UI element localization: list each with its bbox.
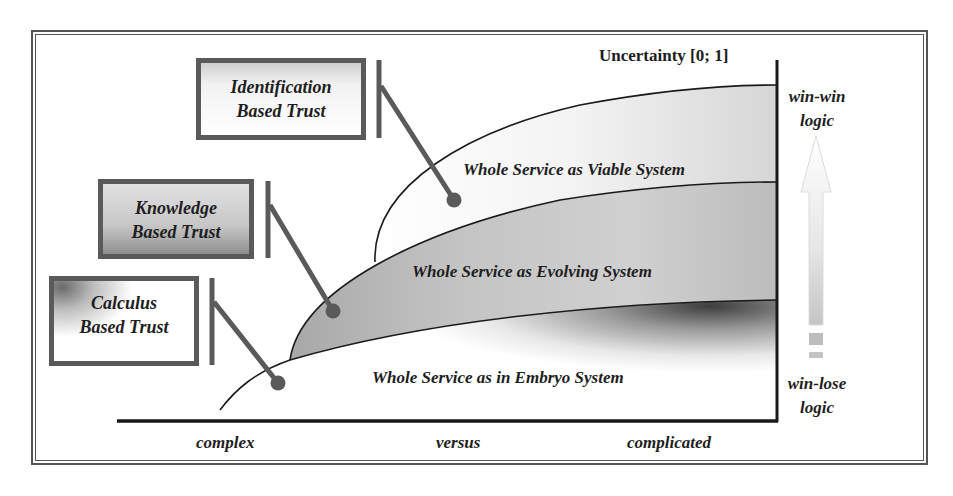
connector-dot-knowledge — [326, 304, 341, 319]
logic-text: logic — [778, 396, 856, 420]
x-label-complicated: complicated — [627, 433, 711, 453]
trust-box-line1: Calculus — [91, 291, 157, 315]
connector-dot-calculus — [271, 376, 286, 391]
region-label-evolving: Whole Service as Evolving System — [412, 262, 652, 282]
trust-box-line2: Based Trust — [132, 220, 221, 244]
connector-line-knowledge — [270, 205, 333, 311]
knowledge-based-trust-box: Knowledge Based Trust — [98, 179, 254, 259]
calculus-based-trust-box: Calculus Based Trust — [49, 276, 199, 366]
trust-box-line2: Based Trust — [80, 315, 169, 339]
win-lose-text: win-lose — [778, 372, 856, 396]
region-label-viable: Whole Service as Viable System — [463, 160, 685, 180]
trust-box-line1: Knowledge — [135, 196, 217, 220]
x-label-versus: versus — [436, 433, 480, 453]
trust-box-line2: Based Trust — [237, 99, 326, 123]
win-lose-logic-label: win-lose logic — [778, 372, 856, 420]
trust-box-line1: Identification — [230, 75, 331, 99]
logic-text: logic — [780, 109, 854, 133]
up-arrow-gradient-icon — [801, 136, 831, 358]
region-label-embryo: Whole Service as in Embryo System — [372, 368, 624, 388]
win-win-logic-label: win-win logic — [780, 85, 854, 133]
x-label-complex: complex — [196, 433, 255, 453]
connector-dot-identification — [447, 193, 462, 208]
win-win-text: win-win — [780, 85, 854, 109]
y-axis-title: Uncertainty [0; 1] — [599, 46, 728, 66]
identification-based-trust-box: Identification Based Trust — [196, 58, 366, 140]
connector-line-calculus — [214, 302, 278, 383]
